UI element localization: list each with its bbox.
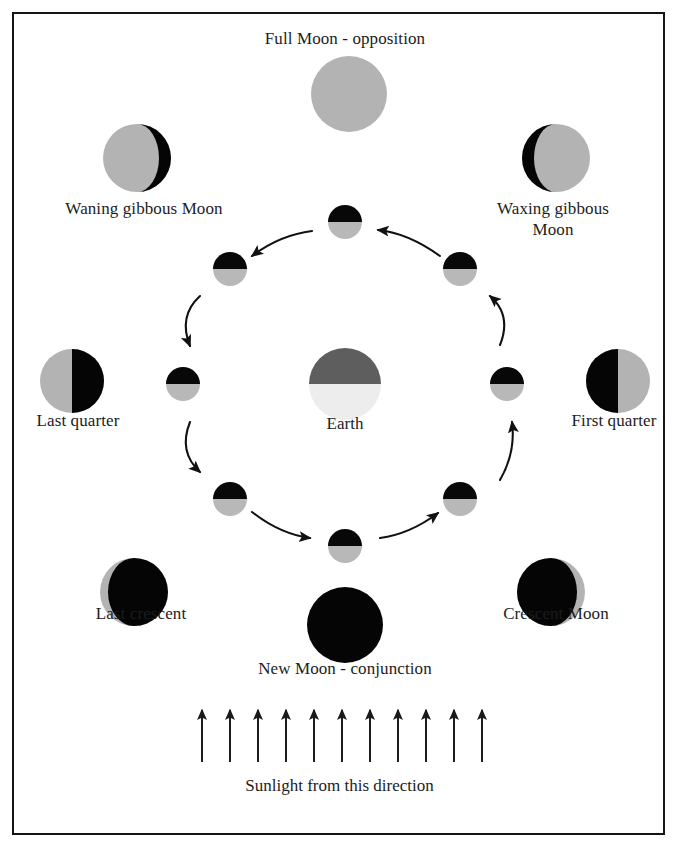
waning-gibbous-moon-disc — [103, 124, 171, 192]
label-last-quarter: Last quarter — [8, 410, 148, 431]
label-first-quarter: First quarter — [544, 410, 679, 431]
orbit-moon-lower-right — [443, 482, 477, 516]
label-earth: Earth — [285, 414, 405, 434]
caption-sunlight-direction: Sunlight from this direction — [0, 776, 679, 796]
orbit-moon-left — [166, 367, 200, 401]
full-moon-disc — [311, 56, 387, 132]
label-crescent-moon: Crescent Moon — [486, 603, 626, 624]
orbit-moon-lower-left — [213, 482, 247, 516]
orbit-moon-upper-left — [213, 252, 247, 286]
label-waning-gibbous-moon: Waning gibbous Moon — [24, 198, 264, 219]
orbit-arrow-bottom-right — [380, 513, 438, 538]
new-moon-disc — [307, 587, 383, 663]
first-quarter-disc — [586, 349, 650, 413]
earth-globe — [309, 348, 381, 420]
orbit-arrow-upper-right — [490, 296, 504, 345]
orbit-arrow-upper-left — [186, 296, 200, 346]
orbit-arrow-right — [500, 422, 513, 480]
label-last-crescent: Last crescent — [71, 603, 211, 624]
sunlight-arrow-group — [202, 710, 482, 762]
orbit-arrow-top-right — [378, 230, 440, 256]
orbit-arrow-top-left — [252, 231, 312, 256]
label-full-moon: Full Moon - opposition — [195, 28, 495, 49]
last-quarter-disc — [40, 349, 104, 413]
orbit-moon-right — [490, 367, 524, 401]
orbit-moon-top — [328, 205, 362, 239]
label-new-moon: New Moon - conjunction — [195, 658, 495, 679]
orbit-arrow-lower-left — [186, 422, 200, 472]
orbit-moon-bottom — [328, 529, 362, 563]
label-waxing-gibbous-moon: Waxing gibbous Moon — [463, 198, 643, 240]
waxing-gibbous-moon-disc — [522, 124, 590, 192]
orbit-arrow-bottom-left — [252, 512, 310, 538]
orbit-moon-upper-right — [443, 252, 477, 286]
